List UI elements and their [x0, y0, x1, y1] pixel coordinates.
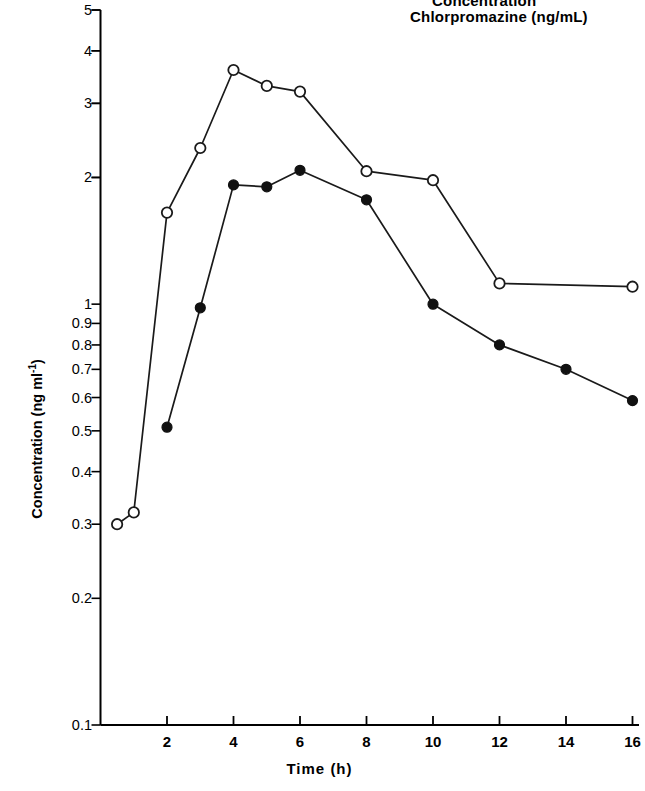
tick-marks [92, 10, 633, 725]
data-point [295, 86, 305, 96]
data-point [295, 165, 305, 175]
data-point [628, 396, 638, 406]
data-series-layer [112, 65, 638, 530]
data-point [195, 303, 205, 313]
data-point [362, 195, 372, 205]
data-point [627, 282, 637, 292]
data-point [162, 422, 172, 432]
data-point [228, 65, 238, 75]
data-point [129, 507, 139, 517]
data-point [495, 340, 505, 350]
data-point [494, 278, 504, 288]
series-open-circles [112, 65, 638, 530]
data-point [112, 519, 122, 529]
data-point [262, 81, 272, 91]
data-point [195, 143, 205, 153]
data-point [428, 175, 438, 185]
data-point [428, 299, 438, 309]
series-filled-circles [162, 165, 638, 432]
data-point [561, 364, 571, 374]
data-point [262, 182, 272, 192]
data-point [162, 207, 172, 217]
data-point [361, 166, 371, 176]
data-point [229, 180, 239, 190]
axis-lines [101, 10, 640, 725]
